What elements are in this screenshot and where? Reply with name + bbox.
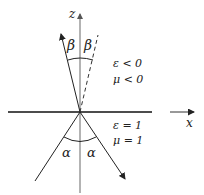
beta-right-label: β — [83, 37, 92, 53]
diagram-canvas: z x β β ε < 0 μ < 0 ε = 1 μ = 1 α α — [0, 0, 204, 195]
lower-epsilon-label: ε = 1 — [113, 119, 142, 132]
beta-left-label: β — [66, 37, 75, 53]
alpha-left-label: α — [62, 145, 71, 160]
z-axis-label: z — [68, 7, 76, 21]
x-axis-label: x — [186, 116, 193, 130]
incident-ray-left — [35, 112, 80, 181]
lower-mu-label: μ = 1 — [113, 134, 143, 147]
upper-epsilon-label: ε < 0 — [113, 57, 142, 70]
upper-mu-label: μ < 0 — [113, 73, 143, 86]
refraction-diagram: z x β β ε < 0 μ < 0 ε = 1 μ = 1 α α — [0, 0, 204, 195]
alpha-right-label: α — [87, 145, 96, 160]
